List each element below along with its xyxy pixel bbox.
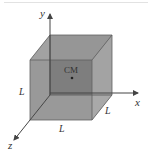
cube-diagram: y x z CM L L L xyxy=(0,0,152,156)
y-axis-label: y xyxy=(39,7,45,19)
x-axis-label: x xyxy=(134,96,140,108)
side-length-label-left: L xyxy=(18,86,25,97)
side-length-label-right: L xyxy=(104,105,111,116)
center-of-mass-label: CM xyxy=(64,65,78,75)
side-length-label-bottom: L xyxy=(58,123,65,134)
cube-front-face xyxy=(30,60,92,120)
center-of-mass-dot xyxy=(71,77,74,80)
z-axis-label: z xyxy=(7,139,13,151)
